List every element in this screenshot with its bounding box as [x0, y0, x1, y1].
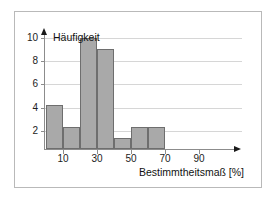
- y-axis-arrow-icon: [41, 28, 47, 35]
- bar-bin-0-10: [46, 105, 63, 149]
- y-axis-line: [44, 34, 45, 150]
- x-axis-arrow-icon: [234, 146, 241, 152]
- y-tick-4: [41, 108, 45, 109]
- bar-bin-10-20: [63, 127, 80, 149]
- y-tick-label-8: 8: [18, 55, 38, 66]
- x-axis-line: [44, 149, 236, 150]
- y-tick-label-2: 2: [18, 125, 38, 136]
- gridline-y-4: [45, 108, 242, 109]
- x-tick-label-90: 90: [187, 153, 211, 164]
- x-axis-title: Bestimmtheitsmaß [%]: [139, 166, 244, 178]
- y-tick-6: [41, 84, 45, 85]
- x-tick-label-70: 70: [153, 153, 177, 164]
- y-tick-8: [41, 61, 45, 62]
- gridline-y-6: [45, 84, 242, 85]
- y-tick-2: [41, 131, 45, 132]
- x-tick-label-30: 30: [85, 153, 109, 164]
- y-axis-title: Häufigkeit: [53, 31, 100, 43]
- bar-bin-20-30: [80, 38, 97, 149]
- bar-bin-50-60: [131, 127, 148, 149]
- y-tick-10: [41, 38, 45, 39]
- y-tick-label-6: 6: [18, 78, 38, 89]
- plot-area: 2 4 6 8 10 10 30 50 70 90 Häufigkeit Bes…: [0, 0, 278, 199]
- x-tick-label-50: 50: [119, 153, 143, 164]
- bar-bin-60-70: [148, 127, 165, 149]
- bar-bin-30-40: [97, 49, 114, 149]
- gridline-y-8: [45, 61, 242, 62]
- y-tick-label-10: 10: [18, 32, 38, 43]
- x-tick-label-10: 10: [51, 153, 75, 164]
- y-tick-label-4: 4: [18, 102, 38, 113]
- bar-bin-40-50: [114, 138, 131, 149]
- histogram-figure: 2 4 6 8 10 10 30 50 70 90 Häufigkeit Bes…: [0, 0, 278, 199]
